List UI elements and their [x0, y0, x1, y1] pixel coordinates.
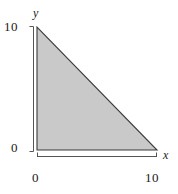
chart-figure: 10 0 0 10 y x	[0, 0, 178, 194]
x-axis-tick-label-left: 0	[32, 171, 39, 184]
y-axis-label: y	[33, 7, 38, 19]
y-axis-tick-label-top: 10	[4, 20, 18, 33]
x-axis-label: x	[163, 149, 168, 161]
y-axis-tick-label-bottom: 0	[11, 141, 18, 154]
x-axis-bracket	[37, 153, 157, 157]
y-axis-bracket	[30, 27, 34, 152]
x-axis-tick-label-right: 10	[145, 171, 159, 184]
shaded-triangle-region	[37, 27, 157, 150]
chart-canvas	[0, 0, 178, 194]
